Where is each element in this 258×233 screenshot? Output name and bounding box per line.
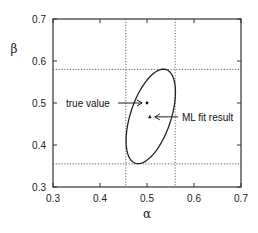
chart: 0.30.40.50.60.70.30.40.50.60.7 α β true …: [0, 0, 258, 233]
x-tick-label: 0.4: [93, 193, 107, 204]
plot-area: 0.30.40.50.60.70.30.40.50.60.7: [32, 14, 248, 204]
y-tick-label: 0.5: [32, 98, 46, 109]
x-tick-label: 0.5: [140, 193, 154, 204]
y-tick-label: 0.3: [32, 182, 46, 193]
y-axis-label: β: [11, 42, 18, 56]
x-tick-label: 0.6: [187, 193, 201, 204]
x-axis-label: α: [143, 207, 151, 221]
y-tick-label: 0.7: [32, 14, 46, 25]
ml-fit-annotation: ML fit result: [182, 112, 234, 123]
y-tick-label: 0.4: [32, 140, 46, 151]
x-tick-label: 0.3: [46, 193, 60, 204]
true-value-marker: [146, 102, 149, 105]
true-value-annotation: true value: [66, 98, 110, 109]
y-tick-label: 0.6: [32, 56, 46, 67]
ml-fit-marker: [148, 115, 152, 118]
x-tick-label: 0.7: [234, 193, 248, 204]
